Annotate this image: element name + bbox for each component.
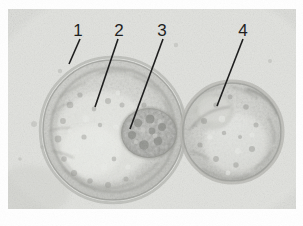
callout-label-1: 1 xyxy=(70,22,86,39)
figure-root: 1 2 3 4 xyxy=(0,0,303,226)
callout-label-2: 2 xyxy=(111,22,127,39)
micrograph-canvas xyxy=(8,9,296,209)
micrograph-image xyxy=(8,9,296,209)
callout-label-4: 4 xyxy=(235,22,251,39)
callout-label-3: 3 xyxy=(154,22,170,39)
